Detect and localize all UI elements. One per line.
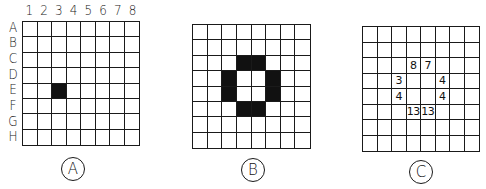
grid-cell-b5	[252, 40, 267, 55]
grid-cell-h7	[450, 136, 465, 152]
row-label: A	[6, 20, 20, 35]
grid-cell-d4	[237, 71, 252, 86]
grid-cell-f1	[23, 99, 38, 114]
grid-cell-e3	[52, 84, 67, 99]
grid-cell-a2	[378, 27, 393, 43]
grid-cell-f7	[450, 105, 465, 121]
grid-cell-d1	[23, 68, 38, 83]
grid-cell-h5	[81, 130, 96, 145]
grid-cell-g7	[281, 117, 296, 132]
grid-cell-c2	[38, 53, 53, 68]
grid-cell-h1	[363, 136, 378, 152]
grid-cell-f7	[110, 99, 125, 114]
grid-cell-g8	[125, 114, 140, 129]
grid-cell-a6	[266, 25, 281, 40]
grid-cell-e8	[465, 89, 480, 105]
grid-cell-e6	[266, 87, 281, 102]
grid-cell-e4	[407, 89, 422, 105]
grid-cell-f6	[266, 102, 281, 117]
grid-cell-e2	[378, 89, 393, 105]
grid-cell-h4	[237, 133, 252, 148]
grid-cell-a6	[96, 22, 111, 37]
grid-cell-d4	[67, 68, 82, 83]
grid-cell-a4	[407, 27, 422, 43]
grid-cell-a3	[222, 25, 237, 40]
grid-cell-b1	[23, 37, 38, 52]
grid-cell-d2	[38, 68, 53, 83]
grid-cell-f2	[378, 105, 393, 121]
grid-cell-c8	[465, 58, 480, 74]
grid-cell-g6	[266, 117, 281, 132]
grid-cell-a1	[193, 25, 208, 40]
grid-cell-e1	[23, 84, 38, 99]
grid-cell-g4	[67, 114, 82, 129]
grid-cell-h3	[222, 133, 237, 148]
grid-cell-g6	[436, 120, 451, 136]
column-label: 3	[52, 3, 67, 18]
panel-label-c: C	[409, 160, 433, 184]
grid-cell-c2	[208, 56, 223, 71]
grid-cell-e7	[110, 84, 125, 99]
grid-cell-a6	[436, 27, 451, 43]
grid-cell-e7	[450, 89, 465, 105]
column-label: 6	[96, 3, 111, 18]
column-label: 1	[22, 3, 37, 18]
grid-cell-d2	[378, 74, 393, 90]
grid-cell-c4	[67, 53, 82, 68]
grid-cell-d6	[266, 71, 281, 86]
grid-cell-f3	[222, 102, 237, 117]
grid-cell-c6	[266, 56, 281, 71]
grid-cell-e6	[96, 84, 111, 99]
column-label: 4	[66, 3, 81, 18]
grid-cell-g1	[193, 117, 208, 132]
grid-cell-d6: 4	[436, 74, 451, 90]
grid-cell-h3	[52, 130, 67, 145]
grid-cell-g2	[378, 120, 393, 136]
grid-cell-b7	[450, 43, 465, 59]
grid-cell-f6	[96, 99, 111, 114]
grid-cell-f2	[208, 102, 223, 117]
grid-cell-e6: 4	[436, 89, 451, 105]
grid-cell-b3	[392, 43, 407, 59]
grid-cell-d7	[281, 71, 296, 86]
grid-cell-g7	[450, 120, 465, 136]
column-label: 8	[125, 3, 140, 18]
grid-cell-f5: 13	[421, 105, 436, 121]
grid-cell-d5	[252, 71, 267, 86]
grid-cell-b2	[38, 37, 53, 52]
grid-cell-h4	[407, 136, 422, 152]
grid-cell-b3	[52, 37, 67, 52]
grid-cell-a5	[421, 27, 436, 43]
grid-cell-a7	[450, 27, 465, 43]
grid-cell-e2	[38, 84, 53, 99]
grid-cell-a3	[52, 22, 67, 37]
grid-cell-g5	[252, 117, 267, 132]
grid-cell-a2	[208, 25, 223, 40]
grid-cell-g1	[23, 114, 38, 129]
row-label: F	[6, 98, 20, 113]
grid-cell-f8	[465, 105, 480, 121]
row-label: C	[6, 51, 20, 66]
grid-cell-d7	[110, 68, 125, 83]
grid-cell-c5	[81, 53, 96, 68]
grid-cell-h2	[38, 130, 53, 145]
grid-cell-f4	[67, 99, 82, 114]
grid-cell-d1	[363, 74, 378, 90]
grid-cell-g2	[208, 117, 223, 132]
grid-cell-e5	[81, 84, 96, 99]
grid-cell-f4: 13	[407, 105, 422, 121]
grid-cell-h4	[67, 130, 82, 145]
grid-cell-d3	[222, 71, 237, 86]
grid-cell-b8	[125, 37, 140, 52]
grid-cell-d8	[125, 68, 140, 83]
grid-cell-a3	[392, 27, 407, 43]
grid-cell-h1	[23, 130, 38, 145]
grid-cell-e8	[125, 84, 140, 99]
grid-cell-g7	[110, 114, 125, 129]
grid-cell-g4	[237, 117, 252, 132]
grid-cell-h8	[125, 130, 140, 145]
grid-cell-h5	[252, 133, 267, 148]
grid-cell-c6	[96, 53, 111, 68]
row-label: D	[6, 67, 20, 82]
grid-cell-e3	[222, 87, 237, 102]
